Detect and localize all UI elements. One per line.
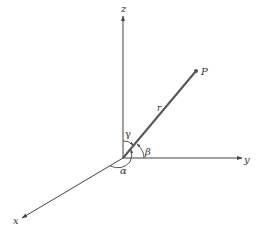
beta-angle-label: β [144,146,151,157]
alpha-angle-label: α [120,165,127,176]
vector-r-label: r [157,103,162,113]
z-axis-label: z [120,3,127,14]
point-p-dot [194,69,198,73]
gamma-angle-arc [123,141,133,145]
gamma-angle-label: γ [125,128,131,139]
x-axis [22,158,123,218]
position-vector-r [123,71,196,158]
beta-angle-arc [137,144,144,158]
x-axis-label: x [13,215,19,226]
y-axis-label: y [243,154,250,165]
point-p-label: P [200,66,208,77]
direction-angles-diagram: z y x P r γ β α [0,0,261,232]
